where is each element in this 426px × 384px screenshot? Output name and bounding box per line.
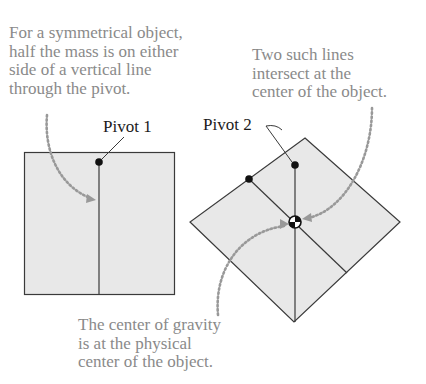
caption-intersect: Two such lines intersect at the center o… (252, 46, 387, 102)
caption-gravity: The center of gravity is at the physical… (78, 316, 221, 372)
second-pivot-dot (245, 175, 253, 183)
pivot-2-dot (291, 161, 299, 169)
center-of-gravity-icon (289, 216, 301, 228)
caption-symmetry: For a symmetrical object, half the mass … (9, 24, 183, 98)
pivot-1-label: Pivot 1 (103, 118, 152, 136)
pivot-1-dot (95, 158, 103, 166)
pivot-2-label: Pivot 2 (203, 116, 252, 134)
